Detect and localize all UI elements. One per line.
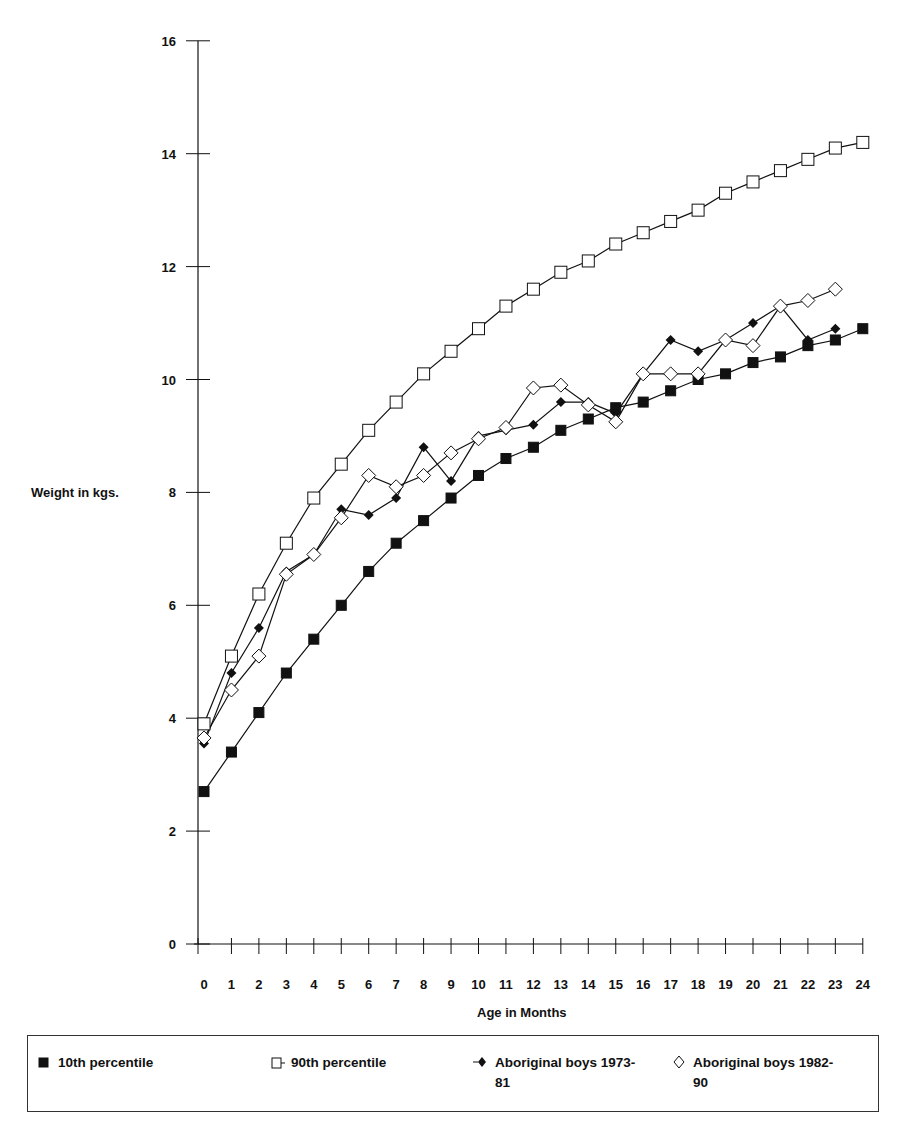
- series-10th-percentile: [204, 329, 863, 792]
- x-tick-label: 2: [255, 977, 262, 992]
- markers-90th-percentile: [198, 136, 869, 729]
- y-tick-label: 4: [169, 711, 177, 726]
- legend-item-aboriginal-1982-90: Aboriginal boys 1982- 90: [671, 1053, 833, 1093]
- open-square-icon: [269, 1053, 285, 1073]
- x-tick-label: 3: [283, 977, 290, 992]
- x-tick-label: 9: [447, 977, 454, 992]
- x-tick-label: 4: [310, 977, 318, 992]
- y-tick-label: 2: [169, 824, 176, 839]
- x-tick-label: 7: [393, 977, 400, 992]
- x-tick-label: 20: [746, 977, 760, 992]
- x-tick-label: 10: [471, 977, 485, 992]
- x-tick-label: 13: [554, 977, 568, 992]
- markers-aboriginal-boys-1982-90: [197, 282, 842, 745]
- y-tick-label: 14: [162, 147, 177, 162]
- x-tick-label: 12: [526, 977, 540, 992]
- x-tick-label: 15: [609, 977, 623, 992]
- x-tick-label: 18: [691, 977, 705, 992]
- y-tick-label: 12: [162, 260, 176, 275]
- legend-item-90th-percentile: 90th percentile: [269, 1053, 386, 1073]
- x-tick-label: 5: [338, 977, 345, 992]
- legend-item-aboriginal-1973-81: Aboriginal boys 1973- 81: [473, 1053, 635, 1093]
- x-axis-title: Age in Months: [477, 1005, 567, 1020]
- x-tick-label: 14: [581, 977, 596, 992]
- y-tick-label: 16: [162, 34, 176, 49]
- x-tick-label: 24: [856, 977, 871, 992]
- series-90th-percentile: [204, 142, 863, 723]
- filled-diamond-icon: [473, 1053, 489, 1073]
- legend-label: 90th percentile: [291, 1053, 386, 1073]
- series-aboriginal-boys-1973-81: [204, 306, 835, 743]
- x-tick-label: 23: [828, 977, 842, 992]
- legend-label: Aboriginal boys 1973- 81: [495, 1053, 635, 1093]
- plot-series: [197, 136, 869, 796]
- open-diamond-icon: [671, 1053, 687, 1073]
- legend-item-10th-percentile: 10th percentile: [36, 1053, 153, 1073]
- series-aboriginal-boys-1982-90: [204, 289, 835, 738]
- x-tick-label: 21: [773, 977, 787, 992]
- weight-chart: 0246810121416012345678910111213141516171…: [0, 0, 910, 1030]
- y-tick-label: 10: [162, 373, 176, 388]
- x-tick-label: 22: [801, 977, 815, 992]
- filled-square-icon: [36, 1053, 52, 1073]
- x-tick-label: 17: [663, 977, 677, 992]
- y-tick-label: 8: [169, 485, 176, 500]
- y-tick-label: 6: [169, 598, 176, 613]
- x-tick-label: 19: [718, 977, 732, 992]
- x-tick-label: 11: [499, 977, 513, 992]
- x-tick-label: 8: [420, 977, 427, 992]
- x-tick-label: 16: [636, 977, 650, 992]
- x-tick-label: 1: [228, 977, 235, 992]
- legend-label: Aboriginal boys 1982- 90: [693, 1053, 833, 1093]
- markers-aboriginal-boys-1973-81: [199, 301, 840, 748]
- x-tick-label: 0: [200, 977, 207, 992]
- y-tick-label: 0: [169, 937, 176, 952]
- x-tick-label: 6: [365, 977, 372, 992]
- legend: 10th percentile 90th percentile Aborigin…: [27, 1035, 879, 1112]
- y-axis-title: Weight in kgs.: [31, 485, 119, 500]
- legend-label: 10th percentile: [58, 1053, 153, 1073]
